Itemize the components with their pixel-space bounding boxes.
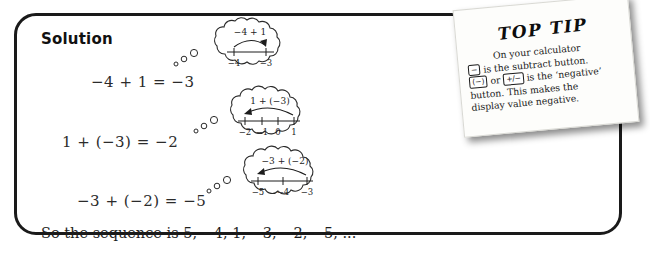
- thought-trail-dot-medium: [214, 183, 220, 189]
- note-paper: TOP TIP On your calculator − is the subt…: [453, 0, 640, 138]
- page-canvas: Solution −4 + 1 = −3 1 + (−3) = −2 −3 + …: [0, 0, 650, 254]
- bubble-expression-2: 1 + (−3): [250, 96, 289, 106]
- thought-trail-dot-small: [174, 62, 178, 66]
- thought-bubble-3: −3 + (−2) −5 −4 −3: [205, 143, 330, 205]
- thought-trail-dot-large: [190, 49, 197, 56]
- equation-2: 1 + (−3) = −2: [62, 133, 178, 151]
- note-or-word: or: [490, 74, 501, 86]
- note-body: On your calculator − is the subtract but…: [466, 38, 631, 115]
- thought-trail-dot-large: [223, 176, 230, 183]
- thought-trail-dot-small: [194, 129, 198, 133]
- thought-trail-dot-medium: [181, 56, 187, 62]
- top-tip-note: TOP TIP On your calculator − is the subt…: [452, 0, 648, 144]
- bubble-expression-3: −3 + (−2): [262, 156, 309, 166]
- calculator-negate-key: (−): [469, 76, 488, 89]
- page-title: Solution: [41, 30, 113, 48]
- thought-trail-dot-large: [210, 116, 217, 123]
- thought-bubble-2: 1 + (−3) −2 −1 0 1: [192, 83, 317, 145]
- tick-label-3a: −5: [252, 187, 265, 197]
- tick-label-2c: 0: [275, 127, 280, 137]
- calculator-minus-key: −: [468, 64, 481, 77]
- thought-bubble-1: −4 + 1 −4 −3: [172, 14, 292, 76]
- tick-label-1b: −3: [260, 58, 273, 68]
- tick-label-2a: −2: [239, 127, 252, 137]
- equation-3: −3 + (−2) = −5: [77, 192, 206, 210]
- thought-trail-dot-small: [207, 189, 211, 193]
- tick-label-3c: −3: [301, 187, 314, 197]
- thought-trail-dot-medium: [201, 123, 207, 129]
- bubble-expression-1: −4 + 1: [234, 27, 266, 37]
- sequence-conclusion: So the sequence is 5, −4, 1, −3, −2, −5,…: [41, 225, 356, 241]
- tick-label-2d: 1: [291, 127, 296, 137]
- calculator-plusminus-key: +/−: [503, 72, 524, 85]
- tick-label-2b: −1: [256, 127, 269, 137]
- tick-label-1a: −4: [228, 58, 241, 68]
- tick-label-3b: −4: [277, 187, 290, 197]
